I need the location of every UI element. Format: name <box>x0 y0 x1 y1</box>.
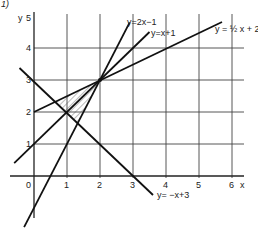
y-axis-label: y <box>18 13 23 23</box>
graph-figure: 1) 0 1 2 3 4 5 6 x 1 2 <box>0 0 258 232</box>
label-line-neg-x-plus-3: y= −x+3 <box>157 190 189 200</box>
intersection-point <box>98 78 102 82</box>
svg-text:2: 2 <box>97 180 102 190</box>
svg-text:0: 0 <box>26 180 31 190</box>
svg-text:1: 1 <box>26 139 31 149</box>
svg-text:6: 6 <box>229 180 234 190</box>
label-line-x-plus-1: y=x+1 <box>151 28 176 38</box>
label-line-half-x-plus-2: y = ½ x + 2 <box>215 24 258 34</box>
line-2x-minus-1 <box>24 22 130 227</box>
figure-label: 1) <box>1 0 9 9</box>
y-tick-labels: 1 2 3 4 5 <box>26 13 31 149</box>
svg-text:3: 3 <box>26 75 31 85</box>
svg-text:5: 5 <box>26 13 31 23</box>
svg-text:5: 5 <box>196 180 201 190</box>
svg-text:4: 4 <box>26 43 31 53</box>
svg-text:3: 3 <box>130 180 135 190</box>
svg-text:2: 2 <box>26 107 31 117</box>
x-axis-label: x <box>240 180 245 190</box>
svg-text:4: 4 <box>163 180 168 190</box>
x-tick-labels: 0 1 2 3 4 5 6 <box>26 180 234 190</box>
svg-text:1: 1 <box>64 180 69 190</box>
label-line-2x-minus-1: y=2x−1 <box>127 17 157 27</box>
line-half-x-plus-2 <box>34 22 222 112</box>
